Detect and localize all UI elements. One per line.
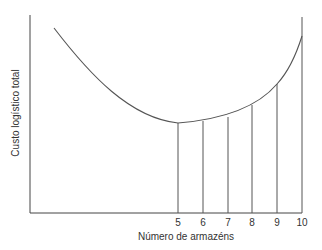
x-tick: 5 [175,217,181,228]
y-axis-label: Custo logístico total [10,69,21,156]
x-axis-label: Número de armazéns [138,231,234,242]
x-tick: 10 [296,217,308,228]
x-tick: 9 [274,217,280,228]
chart: 5 6 7 8 9 10 Número de armazéns Custo lo… [0,0,322,250]
drop-lines [178,17,302,213]
cost-curve [54,28,302,123]
x-tick: 6 [200,217,206,228]
x-tick: 8 [249,217,255,228]
x-tick: 7 [225,217,231,228]
